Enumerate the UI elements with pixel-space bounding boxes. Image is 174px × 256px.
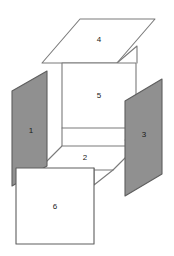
face-6-shape xyxy=(16,168,94,244)
cube-diagram: 1 2 3 4 5 6 xyxy=(0,0,174,256)
exploded-cube-figure: 1 2 3 4 5 6 xyxy=(0,0,174,256)
